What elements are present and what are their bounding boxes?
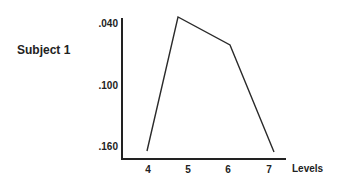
x-axis-label: Levels bbox=[292, 163, 323, 174]
line-plot bbox=[0, 0, 337, 183]
x-tick-7: 7 bbox=[261, 164, 277, 175]
x-tick-5: 5 bbox=[180, 164, 196, 175]
data-line bbox=[147, 17, 274, 152]
x-tick-6: 6 bbox=[220, 164, 236, 175]
x-tick-4: 4 bbox=[140, 164, 156, 175]
